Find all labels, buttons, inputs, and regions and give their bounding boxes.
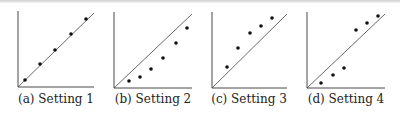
data-point xyxy=(185,26,189,30)
data-point xyxy=(38,62,42,66)
data-point xyxy=(138,75,142,79)
data-point xyxy=(331,73,335,77)
panel-d xyxy=(307,12,385,88)
diagonal-line xyxy=(212,14,287,88)
data-point xyxy=(225,65,229,69)
data-point xyxy=(248,31,252,35)
panel-c xyxy=(212,12,287,88)
data-point xyxy=(69,32,73,36)
panel-a xyxy=(18,11,94,87)
diagonal-line xyxy=(114,14,192,88)
data-point xyxy=(319,81,323,85)
data-point xyxy=(376,14,380,18)
data-point xyxy=(236,46,240,50)
data-point xyxy=(354,28,358,32)
data-point xyxy=(270,16,274,20)
data-point xyxy=(365,21,369,25)
data-point xyxy=(342,66,346,70)
data-point xyxy=(174,41,178,45)
diagonal-line xyxy=(307,14,385,88)
data-point xyxy=(149,67,153,71)
data-point xyxy=(161,56,165,60)
caption-c: (c) Setting 3 xyxy=(204,92,294,106)
data-point xyxy=(84,17,88,21)
data-point xyxy=(23,78,27,82)
data-point xyxy=(53,48,57,52)
data-point xyxy=(259,24,263,28)
caption-a: (a) Setting 1 xyxy=(11,92,101,106)
data-point xyxy=(127,79,131,83)
caption-d: (d) Setting 4 xyxy=(301,92,391,106)
caption-b: (b) Setting 2 xyxy=(108,92,198,106)
panel-b xyxy=(114,12,192,88)
